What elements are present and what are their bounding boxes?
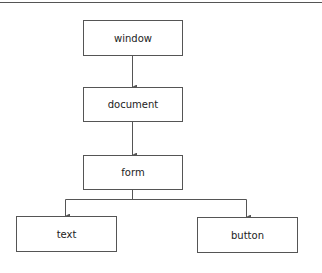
node-window-label: window — [114, 33, 152, 44]
node-text: text — [16, 216, 117, 252]
node-text-label: text — [57, 229, 77, 240]
node-form: form — [83, 155, 183, 190]
node-form-label: form — [121, 167, 144, 178]
node-document: document — [83, 87, 183, 122]
node-window: window — [83, 20, 183, 56]
node-document-label: document — [108, 99, 158, 110]
node-button: button — [197, 217, 298, 253]
node-button-label: button — [231, 230, 264, 241]
